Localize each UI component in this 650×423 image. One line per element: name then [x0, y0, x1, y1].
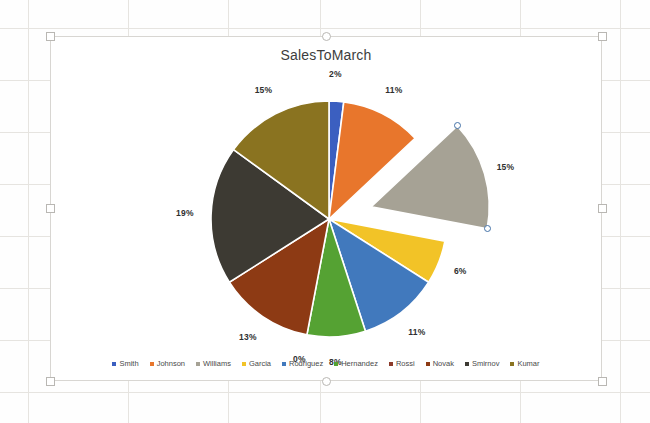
- chart-plot-container: SalesToMarch 2%11%15%6%11%8%0%13%19%15% …: [51, 37, 601, 380]
- legend-label: Williams: [203, 359, 231, 368]
- chart-object[interactable]: SalesToMarch 2%11%15%6%11%8%0%13%19%15% …: [50, 36, 602, 381]
- legend-item-rodriguez[interactable]: Rodriguez: [282, 359, 323, 368]
- legend-label: Novak: [433, 359, 454, 368]
- data-label-smith: 2%: [329, 69, 342, 79]
- chart-resize-handle-top-right[interactable]: [598, 32, 607, 41]
- legend-swatch-icon: [150, 362, 154, 366]
- legend-item-novak[interactable]: Novak: [426, 359, 454, 368]
- chart-resize-handle-middle-left[interactable]: [46, 204, 55, 213]
- legend-swatch-icon: [242, 362, 246, 366]
- grid-column-line: [620, 0, 621, 423]
- legend-label: Rodriguez: [289, 359, 323, 368]
- data-label-smirnov: 19%: [176, 208, 194, 218]
- legend-item-smirnov[interactable]: Smirnov: [465, 359, 500, 368]
- data-label-kumar: 15%: [255, 85, 273, 95]
- legend-label: Johnson: [157, 359, 185, 368]
- legend-item-williams[interactable]: Williams: [196, 359, 231, 368]
- legend-label: Smith: [119, 359, 138, 368]
- data-label-garcia: 6%: [454, 266, 467, 276]
- chart-resize-handle-middle-right[interactable]: [598, 204, 607, 213]
- legend-label: Hernandez: [341, 359, 378, 368]
- data-label-johnson: 11%: [385, 85, 402, 95]
- chart-resize-handle-bottom-right[interactable]: [598, 377, 607, 386]
- legend-label: Smirnov: [472, 359, 500, 368]
- data-label-rodriguez: 11%: [408, 327, 425, 337]
- legend-item-garcia[interactable]: Garcia: [242, 359, 271, 368]
- data-label-williams: 15%: [497, 162, 515, 172]
- chart-resize-handle-top-left[interactable]: [46, 32, 55, 41]
- legend-swatch-icon: [465, 362, 469, 366]
- legend-item-rossi[interactable]: Rossi: [389, 359, 415, 368]
- chart-resize-handle-bottom-left[interactable]: [46, 377, 55, 386]
- chart-legend[interactable]: SmithJohnsonWilliamsGarciaRodriguezHerna…: [51, 359, 601, 368]
- legend-swatch-icon: [426, 362, 430, 366]
- legend-item-smith[interactable]: Smith: [112, 359, 138, 368]
- chart-resize-handle-top-center[interactable]: [322, 32, 331, 41]
- legend-label: Garcia: [249, 359, 271, 368]
- grid-row-line: [0, 28, 650, 29]
- grid-row-line: [0, 392, 650, 393]
- chart-resize-handle-bottom-center[interactable]: [322, 377, 331, 386]
- data-label-novak: 13%: [239, 332, 257, 342]
- legend-item-hernandez[interactable]: Hernandez: [334, 359, 378, 368]
- legend-label: Rossi: [396, 359, 415, 368]
- legend-swatch-icon: [334, 362, 338, 366]
- legend-swatch-icon: [112, 362, 116, 366]
- legend-swatch-icon: [282, 362, 286, 366]
- grid-column-line: [28, 0, 29, 423]
- legend-item-johnson[interactable]: Johnson: [150, 359, 185, 368]
- legend-swatch-icon: [196, 362, 200, 366]
- legend-swatch-icon: [510, 362, 514, 366]
- pie-chart-svg[interactable]: [51, 37, 603, 382]
- legend-swatch-icon: [389, 362, 393, 366]
- legend-item-kumar[interactable]: Kumar: [510, 359, 539, 368]
- slice-handle-end[interactable]: [484, 225, 491, 232]
- legend-label: Kumar: [517, 359, 539, 368]
